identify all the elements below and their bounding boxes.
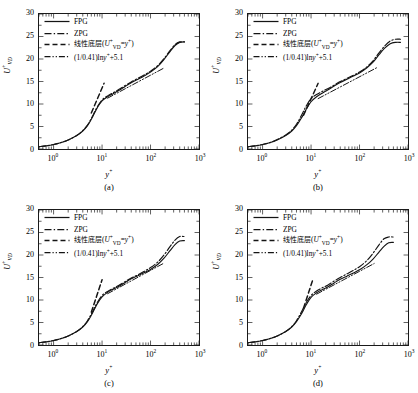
series-log-law: [318, 68, 377, 99]
legend-swatch-icon: [44, 213, 70, 222]
legend-swatch-icon: [253, 17, 279, 26]
series-linear-sublayer: [91, 280, 102, 312]
y-tick-label: 30: [14, 205, 34, 213]
legend-fpg: FPG: [44, 212, 134, 224]
legend-label: (1/0.41)lny++5.1: [74, 50, 123, 64]
y-tick-label: 20: [14, 55, 34, 63]
legend-swatch-icon: [253, 248, 279, 257]
x-tick-label: 103: [396, 153, 418, 163]
x-tick-label: 101: [89, 153, 115, 163]
y-tick-label: 25: [223, 228, 243, 236]
x-tick-label: 100: [40, 349, 66, 359]
x-tick-label: 100: [249, 153, 275, 163]
y-tick-label: 25: [223, 32, 243, 40]
y-tick-label: 15: [223, 274, 243, 282]
y-tick-label: 10: [14, 296, 34, 304]
y-tick-label: 15: [14, 78, 34, 86]
x-tick-label: 102: [347, 349, 373, 359]
x-axis-label: y+: [288, 364, 348, 375]
legend-a: FPGZPG线性底层(U+VD=y+)(1/0.41)lny++5.1: [44, 16, 134, 62]
y-tick-label: 30: [14, 9, 34, 17]
legend-b: FPGZPG线性底层(U+VD=y+)(1/0.41)lny++5.1: [253, 16, 343, 62]
legend-label: FPG: [74, 212, 88, 224]
legend-swatch-icon: [253, 52, 279, 61]
x-tick-label: 100: [40, 153, 66, 163]
panel-caption-d: (d): [288, 378, 348, 388]
y-tick-label: 10: [223, 100, 243, 108]
panel-caption-a: (a): [79, 182, 139, 192]
legend-label: FPG: [74, 16, 88, 28]
panel-b: U+VD FPGZPG线性底层(U+VD=y+)(1/0.41)lny++5.1…: [209, 0, 418, 196]
series-log-law: [108, 68, 164, 98]
y-tick-label: 5: [223, 319, 243, 327]
series-log-law: [108, 263, 164, 294]
y-tick-label: 0: [223, 146, 243, 154]
y-tick-label: 20: [223, 55, 243, 63]
panel-c: U+VD FPGZPG线性底层(U+VD=y+)(1/0.41)lny++5.1…: [0, 196, 209, 392]
legend-swatch-icon: [253, 213, 279, 222]
legend-swatch-icon: [44, 248, 70, 257]
y-tick-label: 5: [14, 123, 34, 131]
legend-label: FPG: [283, 16, 297, 28]
legend-swatch-icon: [44, 40, 70, 49]
legend-fpg: FPG: [253, 16, 343, 28]
legend-log-law: (1/0.41)lny++5.1: [44, 51, 134, 63]
x-tick-label: 100: [249, 349, 275, 359]
legend-fpg: FPG: [253, 212, 343, 224]
y-axis-label: U+VD: [2, 258, 14, 270]
y-tick-label: 30: [223, 9, 243, 17]
legend-swatch-icon: [44, 17, 70, 26]
y-tick-label: 25: [14, 228, 34, 236]
legend-swatch-icon: [253, 29, 279, 38]
legend-label: (1/0.41)lny++5.1: [283, 50, 332, 64]
legend-fpg: FPG: [44, 16, 134, 28]
y-tick-label: 20: [14, 251, 34, 259]
y-tick-label: 10: [14, 100, 34, 108]
y-axis-label: U+VD: [211, 258, 223, 270]
panel-a: U+VD FPGZPG线性底层(U+VD=y+)(1/0.41)lny++5.1…: [0, 0, 209, 196]
y-tick-label: 5: [223, 123, 243, 131]
y-tick-label: 25: [14, 32, 34, 40]
panel-caption-b: (b): [288, 182, 348, 192]
panel-d: U+VD FPGZPG线性底层(U+VD=y+)(1/0.41)lny++5.1…: [209, 196, 418, 392]
y-axis-label: U+VD: [2, 62, 14, 74]
series-log-law: [317, 264, 375, 295]
legend-label: FPG: [283, 212, 297, 224]
legend-swatch-icon: [44, 29, 70, 38]
x-tick-label: 101: [298, 153, 324, 163]
x-tick-label: 103: [396, 349, 418, 359]
x-axis-label: y+: [79, 364, 139, 375]
x-tick-label: 101: [89, 349, 115, 359]
x-tick-label: 102: [138, 153, 164, 163]
y-tick-label: 15: [223, 78, 243, 86]
legend-swatch-icon: [253, 236, 279, 245]
legend-swatch-icon: [44, 52, 70, 61]
x-tick-label: 101: [298, 349, 324, 359]
x-axis-label: y+: [79, 168, 139, 179]
legend-log-law: (1/0.41)lny++5.1: [44, 247, 134, 259]
legend-c: FPGZPG线性底层(U+VD=y+)(1/0.41)lny++5.1: [44, 212, 134, 258]
y-axis-label: U+VD: [211, 62, 223, 74]
legend-d: FPGZPG线性底层(U+VD=y+)(1/0.41)lny++5.1: [253, 212, 343, 258]
y-tick-label: 20: [223, 251, 243, 259]
figure-grid: U+VD FPGZPG线性底层(U+VD=y+)(1/0.41)lny++5.1…: [0, 0, 418, 393]
y-tick-label: 30: [223, 205, 243, 213]
y-tick-label: 0: [14, 342, 34, 350]
series-linear-sublayer: [91, 83, 104, 113]
panel-caption-c: (c): [79, 378, 139, 388]
y-tick-label: 5: [14, 319, 34, 327]
x-tick-label: 102: [347, 153, 373, 163]
y-tick-label: 15: [14, 274, 34, 282]
legend-swatch-icon: [44, 236, 70, 245]
legend-swatch-icon: [253, 40, 279, 49]
x-axis-label: y+: [288, 168, 348, 179]
x-tick-label: 102: [138, 349, 164, 359]
y-tick-label: 0: [14, 146, 34, 154]
legend-swatch-icon: [253, 225, 279, 234]
legend-log-law: (1/0.41)lny++5.1: [253, 247, 343, 259]
legend-swatch-icon: [44, 225, 70, 234]
y-tick-label: 10: [223, 296, 243, 304]
legend-label: (1/0.41)lny++5.1: [74, 246, 123, 260]
series-linear-sublayer: [304, 279, 314, 308]
y-tick-label: 0: [223, 342, 243, 350]
